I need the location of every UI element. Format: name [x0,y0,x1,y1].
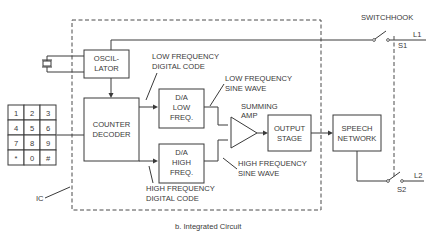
crystal-icon [42,56,84,72]
low-freq-sine-label-1: LOW FREQUENCY [225,74,292,83]
speech-network-block: SPEECH NETWORK [333,115,381,151]
oscillator-block: OSCIL- LATOR [84,50,129,78]
keypad-key-label: 0 [30,154,34,163]
keypad-key-label: 1 [14,109,18,118]
counter-decoder-block: COUNTER DECODER [84,98,139,161]
summing-amp-label-2: AMP [241,111,257,120]
line-l1 [111,40,372,50]
high-freq-sine-label-1: HIGH FREQUENCY [238,159,307,168]
output-stage-label-1: OUTPUT [274,124,306,133]
counter-label-1: COUNTER [93,120,131,129]
summing-amp-triangle [231,117,257,148]
high-freq-digital-label-2: DIGITAL CODE [146,194,199,203]
da-low-label-1: D/A [175,93,189,102]
s1-label: S1 [398,41,407,50]
da-high-label-3: FREQ. [170,168,193,177]
low-sine-wire [204,107,228,125]
keypad-key-label: 2 [30,109,34,118]
s2-label: S2 [397,185,406,194]
switchhook-label: SWITCHHOOK [361,13,413,22]
l2-label: L2 [414,171,422,180]
da-high-label-2: HIGH [172,158,191,167]
high-sine-wire [204,140,228,161]
da-low-freq-block: D/A LOW FREQ. [159,89,204,128]
da-high-label-1: D/A [175,148,189,157]
speech-network-label-2: NETWORK [338,134,377,143]
arrow-icon [263,131,268,136]
keypad-key-label: 6 [46,124,50,133]
leader-line [146,73,157,100]
speech-network-label-1: SPEECH [341,124,372,133]
keypad: 123456789*0# [8,105,56,165]
summing-amp-label-1: SUMMING [241,102,278,111]
integrated-circuit-diagram: IC OSCIL- LATOR COUNTER DECODER 12345678… [0,0,438,232]
oscillator-label-2: LATOR [94,64,119,73]
oscillator-label-1: OSCIL- [94,54,120,63]
output-stage-label-2: STAGE [277,134,302,143]
da-low-label-3: FREQ. [170,113,193,122]
keypad-key-label: * [15,154,18,163]
output-stage-block: OUTPUT STAGE [268,115,311,151]
keypad-key-label: 4 [14,124,18,133]
low-freq-digital-label-1: LOW FREQUENCY [152,52,219,61]
arrow-icon [153,159,158,164]
keypad-key-label: 3 [46,109,50,118]
counter-label-2: DECODER [93,130,131,139]
high-freq-sine-label-2: SINE WAVE [238,169,279,178]
arrow-icon [153,105,158,110]
leader-line [210,84,224,106]
keypad-key-label: 5 [30,124,34,133]
da-high-freq-block: D/A HIGH FREQ. [159,144,204,183]
leader-line [149,166,153,183]
l1-label: L1 [413,30,421,39]
low-freq-digital-label-2: DIGITAL CODE [152,62,205,71]
arrow-icon [328,131,333,136]
line-l2 [357,151,387,181]
keypad-key-label: 8 [30,139,34,148]
keypad-key-label: 7 [14,139,18,148]
ic-leader [45,187,70,198]
figure-caption: b. Integrated Circuit [175,222,242,231]
keypad-key-label: 9 [46,139,50,148]
arrow-icon [109,93,114,98]
leader-line [223,158,237,169]
high-freq-digital-label-1: HIGH FREQUENCY [146,184,215,193]
ic-label: IC [36,194,44,203]
low-freq-sine-label-2: SINE WAVE [225,84,266,93]
da-low-label-2: LOW [173,103,191,112]
